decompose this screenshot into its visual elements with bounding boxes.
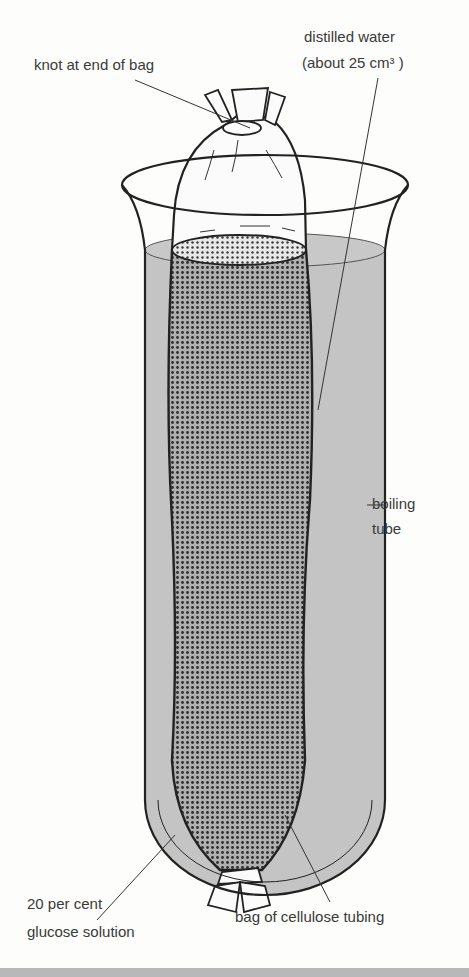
distilled-water-label: distilled water bbox=[304, 27, 395, 46]
boiling-tube-label: boiling bbox=[372, 494, 415, 513]
osmosis-diagram bbox=[0, 0, 469, 977]
bottom-bar bbox=[0, 968, 469, 977]
glucose-bag bbox=[169, 250, 313, 870]
boiling-tube-label-2: tube bbox=[372, 519, 401, 538]
glucose-label: 20 per cent bbox=[27, 894, 102, 913]
glucose-label-2: glucose solution bbox=[27, 922, 135, 941]
cellulose-bag-label: bag of cellulose tubing bbox=[235, 907, 384, 926]
knot-label: knot at end of bag bbox=[34, 55, 154, 74]
distilled-water-volume-label: (about 25 cm³ ) bbox=[302, 53, 404, 72]
